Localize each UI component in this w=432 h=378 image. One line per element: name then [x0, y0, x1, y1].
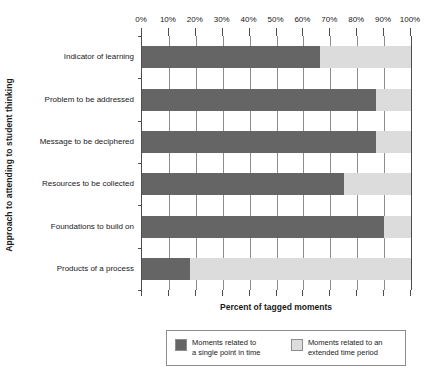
- gridline: [169, 36, 170, 290]
- x-axis-tick-label: 60%: [294, 15, 310, 24]
- y-axis-tick: [138, 36, 142, 37]
- bar-segment-extended-period: [320, 46, 411, 68]
- y-axis-tick: [138, 163, 142, 164]
- x-axis-tick: [410, 290, 411, 296]
- x-axis-tick: [141, 290, 142, 296]
- legend-swatch-single-point-icon: [175, 339, 187, 351]
- x-axis-tick-label: 90%: [375, 15, 391, 24]
- y-axis-title-text: Approach to attending to student thinkin…: [4, 78, 14, 252]
- bar-row: [142, 46, 411, 68]
- y-axis-title: Approach to attending to student thinkin…: [0, 50, 18, 280]
- legend-label: Moments related to a single point in tim…: [192, 338, 260, 358]
- y-axis-category-labels: Indicator of learningProblem to be addre…: [20, 36, 138, 290]
- x-axis-tick-label: 100%: [400, 15, 420, 24]
- y-axis-tick: [138, 205, 142, 206]
- x-axis-tick-label: 30%: [214, 15, 230, 24]
- bar-segment-extended-period: [376, 131, 411, 153]
- x-axis-tick-label: 80%: [348, 15, 364, 24]
- x-axis-tick-labels: 0%10%20%30%40%50%60%70%80%90%100%: [100, 15, 432, 27]
- bar-segment-single-point: [142, 216, 384, 238]
- x-axis-tick: [329, 290, 330, 296]
- x-axis-tick: [276, 28, 277, 36]
- category-label: Problem to be addressed: [16, 95, 134, 104]
- category-label: Resources to be collected: [16, 179, 134, 188]
- bar-segment-extended-period: [384, 216, 411, 238]
- x-axis-tick-label: 50%: [267, 15, 283, 24]
- chart-legend: Moments related to a single point in tim…: [166, 330, 406, 366]
- x-axis-tick: [356, 290, 357, 296]
- bar-segment-single-point: [142, 258, 190, 280]
- x-axis-tick: [249, 28, 250, 36]
- category-label: Foundations to build on: [16, 222, 134, 231]
- legend-entry: Moments related to a single point in tim…: [167, 338, 283, 358]
- y-axis-tick: [138, 248, 142, 249]
- gridline: [277, 36, 278, 290]
- x-axis-tick: [329, 28, 330, 36]
- x-axis-tick: [222, 28, 223, 36]
- gridline: [196, 36, 197, 290]
- gridline: [411, 36, 412, 290]
- y-axis-tick: [138, 121, 142, 122]
- x-axis-tick: [356, 28, 357, 36]
- x-axis-tick: [383, 28, 384, 36]
- y-axis-tick: [138, 78, 142, 79]
- bar-segment-extended-period: [190, 258, 411, 280]
- x-axis-tick: [302, 28, 303, 36]
- x-axis-tick: [141, 28, 142, 36]
- x-axis-tick: [195, 28, 196, 36]
- x-axis-tick-label: 0%: [135, 15, 147, 24]
- x-axis-tick-label: 70%: [321, 15, 337, 24]
- x-axis-ticks-top: [141, 28, 411, 36]
- gridline: [357, 36, 358, 290]
- bar-row: [142, 258, 411, 280]
- x-axis-tick-label: 10%: [160, 15, 176, 24]
- legend-swatch-extended-period-icon: [291, 339, 303, 351]
- bar-segment-single-point: [142, 173, 344, 195]
- bar-row: [142, 89, 411, 111]
- bar-segment-single-point: [142, 46, 320, 68]
- x-axis-tick: [383, 290, 384, 296]
- x-axis-tick: [249, 290, 250, 296]
- category-label: Indicator of learning: [16, 52, 134, 61]
- x-axis-tick: [168, 28, 169, 36]
- bar-segment-single-point: [142, 89, 376, 111]
- bar-row: [142, 131, 411, 153]
- gridline: [250, 36, 251, 290]
- x-axis-tick: [410, 28, 411, 36]
- chart-figure: Approach to attending to student thinkin…: [0, 0, 432, 378]
- bar-row: [142, 173, 411, 195]
- gridline: [303, 36, 304, 290]
- x-axis-title: Percent of tagged moments: [141, 302, 411, 312]
- x-axis-tick: [302, 290, 303, 296]
- x-axis-tick: [168, 290, 169, 296]
- gridline: [330, 36, 331, 290]
- category-label: Products of a process: [16, 264, 134, 273]
- x-axis-tick: [276, 290, 277, 296]
- bar-row: [142, 216, 411, 238]
- x-axis-tick-label: 20%: [187, 15, 203, 24]
- bar-segment-extended-period: [344, 173, 411, 195]
- x-axis-tick-label: 40%: [241, 15, 257, 24]
- legend-label: Moments related to an extended time peri…: [308, 338, 383, 358]
- x-axis-tick: [222, 290, 223, 296]
- bar-segment-extended-period: [376, 89, 411, 111]
- gridline: [223, 36, 224, 290]
- x-axis-ticks-bottom: [141, 290, 411, 296]
- plot-area: [141, 36, 411, 290]
- legend-entry: Moments related to an extended time peri…: [283, 338, 405, 358]
- category-label: Message to be deciphered: [16, 137, 134, 146]
- x-axis-tick: [195, 290, 196, 296]
- gridline: [384, 36, 385, 290]
- bar-segment-single-point: [142, 131, 376, 153]
